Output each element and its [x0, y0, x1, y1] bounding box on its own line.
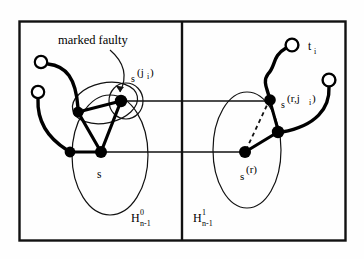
node-label-s-ji-sup-close: ) — [150, 66, 154, 79]
partition-label-right-base: H — [193, 211, 202, 225]
partition-label-right-sup: 1 — [202, 208, 206, 217]
node-label-s-r-sup: (r) — [246, 163, 257, 176]
open-node-top-left — [35, 56, 47, 68]
partition-label-left-sub: n-1 — [140, 219, 151, 228]
marked-faulty-label: marked faulty — [58, 33, 129, 47]
partition-label-left-base: H — [131, 211, 140, 225]
open-node-t-i — [286, 39, 299, 52]
node-label-s: s — [97, 168, 102, 180]
open-node-far-right — [323, 74, 336, 87]
node-label-s-ji-base: s — [131, 73, 135, 84]
filled-node-right-mid — [272, 126, 284, 138]
filled-node-left-low — [65, 147, 76, 158]
figure-canvas: marked faulty s s (j i ) t i s (r,j i ) … — [0, 0, 364, 259]
node-label-s-ji-sup: (j — [137, 66, 144, 79]
open-node-lower-left — [32, 86, 44, 98]
node-label-s-rji-sup-pre: (r,j — [287, 92, 300, 105]
node-label-s-r-base: s — [240, 170, 244, 182]
partition-label-right-sub: n-1 — [202, 219, 213, 228]
filled-node-s-ji — [115, 95, 127, 107]
filled-node-s-r — [239, 146, 251, 158]
node-label-s-rji-sup-close: ) — [312, 92, 316, 105]
node-label-s-rji-base: s — [281, 99, 285, 110]
filled-node-s-rji — [264, 94, 276, 106]
graph-diagram-svg: marked faulty s s (j i ) t i s (r,j i ) … — [0, 0, 364, 259]
partition-label-left-sup: 0 — [140, 208, 144, 217]
filled-node-left-mid — [73, 107, 84, 118]
filled-node-s — [95, 146, 107, 158]
